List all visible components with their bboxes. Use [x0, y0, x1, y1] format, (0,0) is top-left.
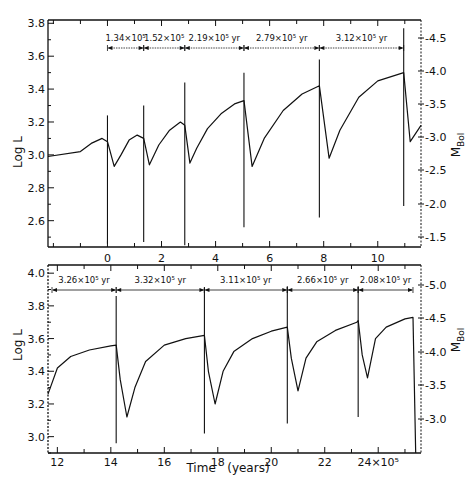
x-tick-label: 10: [371, 252, 385, 265]
log-l-curve: [48, 317, 416, 453]
bottom-panel: 12141618202224×10⁵3.03.23.43.63.84.0-3.0…: [28, 265, 447, 469]
y-tick-label: 4.0: [28, 267, 46, 280]
x-axis-title: Time (years): [185, 461, 269, 475]
y-tick-label: 3.2: [28, 116, 46, 129]
y-tick-label: 3.6: [28, 50, 46, 63]
bottom-ylabel: Log L: [11, 329, 25, 361]
right-tick-label: -3.5: [425, 379, 446, 392]
right-tick-label: -4.0: [425, 65, 446, 78]
right-tick-label: -1.5: [425, 231, 446, 244]
y-tick-label: 3.8: [28, 17, 46, 30]
right-tick-label: -4.5: [425, 32, 446, 45]
svg-text:MBol: MBol: [449, 133, 466, 158]
y-tick-label: 3.4: [28, 365, 46, 378]
right-tick-label: -3.0: [425, 413, 446, 426]
interval-label: 1.34×10⁵: [105, 33, 145, 43]
y-tick-label: 3.4: [28, 83, 46, 96]
top-panel: 02468102.62.83.03.23.43.63.8-1.5-2.0-2.5…: [28, 17, 447, 265]
x-tick-label: 22: [318, 456, 332, 469]
x-tick-label: 8: [320, 252, 327, 265]
y-tick-label: 3.0: [28, 149, 46, 162]
y-tick-label: 2.6: [28, 215, 46, 228]
x-tick-label: 0: [104, 252, 111, 265]
interval-label: 3.32×10⁵ yr: [135, 275, 187, 285]
x-tick-label: 2: [158, 252, 165, 265]
right-tick-label: -2.5: [425, 164, 446, 177]
interval-label: 1.52×10⁵: [144, 33, 184, 43]
log-l-curve: [48, 73, 421, 167]
bottom-right-ylabel: MBol: [449, 328, 466, 353]
interval-label: 3.11×10⁵ yr: [220, 275, 272, 285]
x-tick-label: 24×10⁵: [357, 456, 399, 469]
y-tick-label: 3.6: [28, 333, 46, 346]
x-tick-label: 4: [212, 252, 219, 265]
x-tick-label: 6: [266, 252, 273, 265]
y-tick-label: 3.2: [28, 398, 46, 411]
svg-text:MBol: MBol: [449, 328, 466, 353]
interval-label: 3.26×10⁵ yr: [58, 275, 110, 285]
interval-label: 2.19×10⁵ yr: [189, 33, 241, 43]
thermal-pulse-chart: 02468102.62.83.03.23.43.63.8-1.5-2.0-2.5…: [0, 0, 471, 489]
right-tick-label: -3.0: [425, 131, 446, 144]
x-tick-label: 12: [50, 456, 64, 469]
top-right-ylabel: MBol: [449, 133, 466, 158]
interval-label: 3.12×10⁵ yr: [336, 33, 388, 43]
right-tick-label: -5.0: [425, 279, 446, 292]
right-tick-label: -3.5: [425, 98, 446, 111]
right-tick-label: -2.0: [425, 198, 446, 211]
right-tick-label: -4.0: [425, 346, 446, 359]
y-tick-label: 3.8: [28, 300, 46, 313]
y-tick-label: 3.0: [28, 431, 46, 444]
interval-label: 2.79×10⁵ yr: [256, 33, 308, 43]
interval-label: 2.08×10⁵ yr: [360, 275, 412, 285]
top-ylabel: Log L: [11, 136, 25, 168]
x-tick-label: 14: [104, 456, 118, 469]
x-tick-label: 16: [157, 456, 171, 469]
y-tick-label: 2.8: [28, 182, 46, 195]
right-tick-label: -4.5: [425, 312, 446, 325]
interval-label: 2.66×10⁵ yr: [297, 275, 349, 285]
